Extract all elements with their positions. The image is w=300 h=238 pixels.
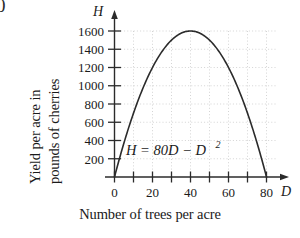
- x-tick-label-20: 20: [146, 185, 159, 200]
- x-axis-arrow: [280, 174, 289, 181]
- equation-text: H = 80D − D: [125, 142, 207, 158]
- y-tick-label-1000: 1000: [78, 78, 104, 93]
- y-tick-label-1600: 1600: [78, 24, 104, 39]
- plot-area: 200 400 600 800 1000 1200 1400 1600 0 20…: [0, 0, 300, 238]
- equation-exponent: 2: [216, 139, 221, 150]
- y-tick-labels: 200 400 600 800 1000 1200 1400 1600: [78, 24, 104, 167]
- y-tick-label-600: 600: [85, 115, 105, 130]
- x-tick-label-40: 40: [184, 185, 197, 200]
- y-tick-label-400: 400: [85, 133, 105, 148]
- x-tick-label-60: 60: [222, 185, 235, 200]
- y-tick-label-800: 800: [85, 97, 105, 112]
- cherry-yield-figure: 0 Yield per acre in pounds of cherries: [0, 0, 300, 238]
- x-tick-label-80: 80: [260, 185, 273, 200]
- x-axis-variable-label: D: [280, 184, 291, 199]
- x-tick-labels: 0 20 40 60 80: [111, 185, 273, 200]
- y-axis-arrow: [111, 10, 118, 19]
- x-tick-label-0: 0: [111, 185, 118, 200]
- equation-annotation: H = 80D − D 2: [125, 139, 221, 159]
- gridlines-horizontal: [115, 31, 278, 159]
- y-tick-label-1400: 1400: [78, 42, 104, 57]
- x-axis-title: Number of trees per acre: [0, 206, 300, 223]
- y-axis-variable-label: H: [92, 4, 104, 19]
- y-tick-label-200: 200: [85, 152, 105, 167]
- y-tick-label-1200: 1200: [78, 60, 104, 75]
